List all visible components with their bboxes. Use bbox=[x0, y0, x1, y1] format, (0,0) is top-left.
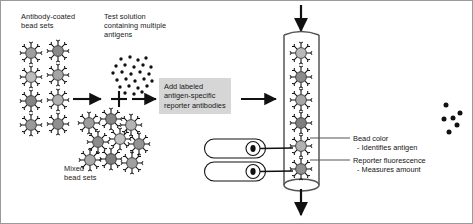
flow-cytometer-tube bbox=[284, 5, 319, 215]
output-signal-dots bbox=[442, 103, 463, 135]
laser-unit-2 bbox=[205, 162, 294, 181]
antibody-coated-bead-group bbox=[20, 40, 69, 136]
figure-canvas: Antibody-coated bead sets Test solution … bbox=[0, 0, 473, 224]
mixed-bead-cluster bbox=[78, 108, 150, 174]
antigen-dot-cloud bbox=[111, 55, 153, 95]
laser-unit-1 bbox=[205, 139, 294, 158]
diagram-vector-layer bbox=[1, 1, 473, 224]
